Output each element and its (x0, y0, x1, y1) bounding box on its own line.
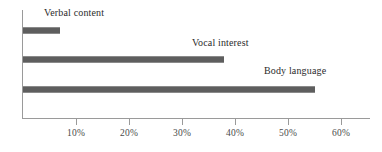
bar-label-verbal-content: Verbal content (44, 7, 104, 18)
bar-body-language (23, 86, 315, 93)
bar-label-vocal-interest: Vocal interest (192, 37, 249, 48)
x-axis-tick-label: 10% (67, 128, 85, 138)
x-axis-tick (129, 119, 130, 125)
x-axis-tick (341, 119, 342, 125)
x-axis-tick-label: 50% (279, 128, 297, 138)
x-axis-tick-label: 60% (332, 128, 350, 138)
x-axis-tick (288, 119, 289, 125)
x-axis-tick (76, 119, 77, 125)
x-axis-tick-label: 20% (120, 128, 138, 138)
bar-verbal-content (23, 27, 60, 34)
x-axis-tick-label: 40% (226, 128, 244, 138)
x-axis-tick (182, 119, 183, 125)
plot-area: 10% 20% 30% 40% 50% 60% Verbal content V… (0, 0, 382, 152)
bar-chart: 10% 20% 30% 40% 50% 60% Verbal content V… (0, 0, 382, 152)
bar-vocal-interest (23, 56, 224, 63)
x-axis-line (22, 118, 370, 119)
x-axis-tick-label: 30% (173, 128, 191, 138)
x-axis-tick (235, 119, 236, 125)
bar-label-body-language: Body language (264, 65, 326, 76)
